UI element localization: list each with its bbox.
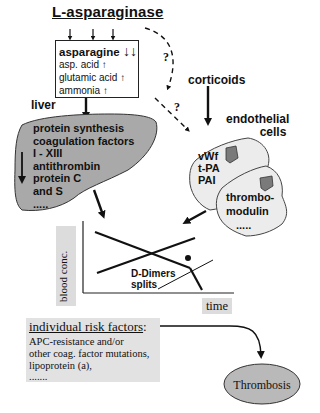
cell-1-contents: vWf t-PA PAI <box>198 150 220 186</box>
risk-to-thrombosis-arrow <box>157 326 261 355</box>
risk-factor-line: other coag. factor mutations, <box>29 348 149 359</box>
chart-annotation: D-Dimers splits <box>131 268 175 290</box>
risk-factor-line: ....... <box>29 371 47 382</box>
risk-factors-heading: individual risk factors <box>29 319 143 334</box>
glutamic-acid-label: glutamic acid <box>59 72 117 83</box>
cell-1-line: vWf <box>198 150 220 162</box>
double-down-arrow-icon: ↓↓ <box>123 43 137 59</box>
title-arrows <box>70 29 113 38</box>
liver-line: I - XIII <box>33 147 134 160</box>
x-axis-label: time <box>202 298 232 314</box>
liver-line: ..... <box>33 198 134 211</box>
liver-line: antithrombin <box>33 160 134 173</box>
asparagine-label: asparagine <box>59 46 120 58</box>
risk-factor-line: lipoprotein (a), <box>29 360 92 371</box>
risk-factors-box: individual risk factors: APC-resistance … <box>26 318 160 382</box>
cell-2-line: thrombo- <box>226 190 274 204</box>
liver-line: coagulation factors <box>33 135 134 148</box>
y-axis-label-box: blood conc. <box>56 226 76 306</box>
colon: : <box>143 319 147 334</box>
question-mark-1: ? <box>163 50 169 65</box>
cell-2-line: modulin <box>226 204 274 218</box>
endothelial-label: endothelial cells <box>226 113 289 139</box>
asp-acid-label: asp. acid <box>59 59 99 70</box>
asparagine-row: asparagine ↓↓ <box>59 43 137 59</box>
risk-factor-line: APC-resistance and/or <box>29 336 124 347</box>
up-arrow-icon: ↑ <box>102 59 107 70</box>
liver-contents: protein synthesis coagulation factors I … <box>33 122 134 210</box>
cells-to-chart-arrow <box>186 211 206 222</box>
corticoids-label: corticoids <box>188 73 245 87</box>
cell-1-line: PAI <box>198 174 220 186</box>
d-dimers-label: D-Dimers <box>131 268 175 279</box>
endothelial-label-line2: cells <box>226 126 289 139</box>
dashed-arrow-2 <box>155 98 188 130</box>
cell-2-line: ..... <box>226 218 274 232</box>
ammonia-row: ammonia ↑ <box>59 85 108 96</box>
asp-acid-row: asp. acid ↑ <box>59 59 107 70</box>
question-mark-2: ? <box>174 100 180 115</box>
liver-line: protein C <box>33 172 134 185</box>
cell-2-contents: thrombo- modulin ..... <box>226 190 274 232</box>
ammonia-label: ammonia <box>59 85 100 96</box>
splits-label: splits <box>131 279 175 290</box>
liver-label: liver <box>31 98 56 112</box>
asparaginase-title: L-asparaginase <box>52 3 163 20</box>
liver-line: and S <box>33 185 134 198</box>
up-arrow-icon: ↑ <box>103 85 108 96</box>
y-axis-label: blood conc. <box>57 251 69 302</box>
cell-1-line: t-PA <box>198 162 220 174</box>
up-arrow-icon: ↑ <box>120 72 125 83</box>
glutamic-acid-row: glutamic acid ↑ <box>59 72 125 83</box>
liver-line: protein synthesis <box>33 122 134 135</box>
thrombosis-label: Thrombosis <box>226 378 298 393</box>
risk-factors-title: individual risk factors: <box>29 319 147 335</box>
amino-acid-box: asparagine ↓↓ asp. acid ↑ glutamic acid … <box>55 40 139 98</box>
